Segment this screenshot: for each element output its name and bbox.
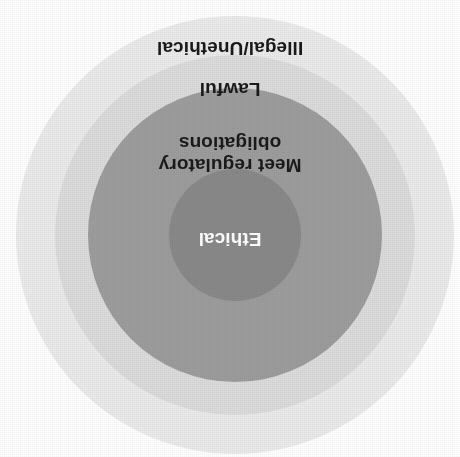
rotated-figure-group: Illegal/Unethical Lawful Meet regulatory… — [0, 0, 460, 457]
ring-label-illegal-unethical: Illegal/Unethical — [0, 37, 460, 59]
ring-label-ethical: Ethical — [0, 228, 460, 250]
ring-label-meet-regulatory-obligations: Meet regulatory obligations — [0, 132, 460, 176]
diagram-canvas: Illegal/Unethical Lawful Meet regulatory… — [0, 0, 460, 457]
ring-label-lawful: Lawful — [0, 78, 460, 100]
